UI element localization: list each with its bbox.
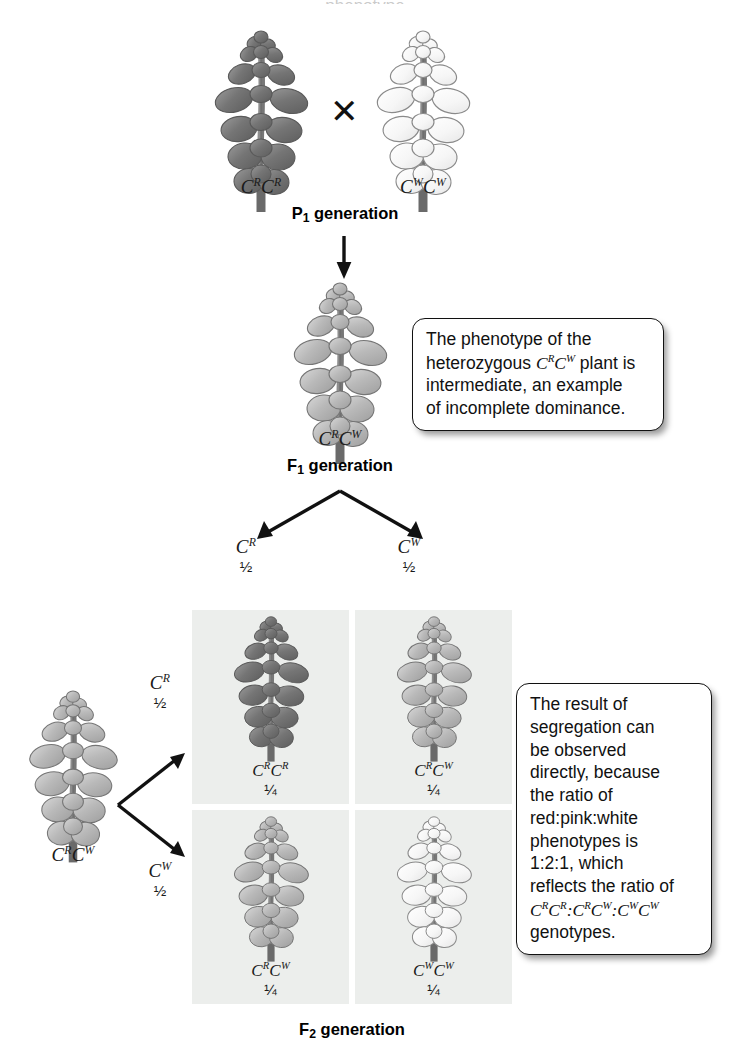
punnett-cell-wr[interactable]: CRCW ¼ xyxy=(192,810,349,1004)
punnett-cell-ww-genotype: CWCW xyxy=(355,960,512,981)
gamete-side-top: CR ½ xyxy=(130,672,190,711)
punnett-cell-wr-plant xyxy=(225,816,317,972)
punnett-cell-ww-plant xyxy=(388,816,480,972)
gamete-top-left: CR ½ xyxy=(205,536,287,575)
callout2-line5: the ratio of xyxy=(530,784,698,807)
punnett-cell-ww-fraction: ¼ xyxy=(355,981,512,998)
side-parent-pink-plant xyxy=(22,690,124,870)
callout1-line4: of incomplete dominance. xyxy=(426,397,650,420)
f1-genotype: CRCW xyxy=(286,428,394,450)
punnett-cell-rw-plant xyxy=(388,616,480,772)
gamete-top-left-fraction: ½ xyxy=(205,558,287,575)
gamete-side-top-fraction: ½ xyxy=(130,694,190,711)
callout2-line11: genotypes. xyxy=(530,921,698,944)
callout-incomplete-dominance: The phenotype of the heterozygous CRCW p… xyxy=(412,318,664,431)
p1-generation-label: P1 generation xyxy=(220,204,470,223)
punnett-cell-rr-fraction: ¼ xyxy=(192,781,349,798)
arrow-side-gamete-split xyxy=(112,745,192,865)
gamete-top-right-fraction: ½ xyxy=(368,558,450,575)
gamete-side-top-genotype: CR xyxy=(130,672,190,694)
punnett-cell-rr[interactable]: CRCR ¼ xyxy=(192,610,349,804)
callout2-line8: 1:2:1, which xyxy=(530,852,698,875)
cross-symbol: ✕ xyxy=(330,94,358,128)
callout2-line1: The result of xyxy=(530,693,698,716)
punnett-cell-rw[interactable]: CRCW ¼ xyxy=(355,610,512,804)
punnett-cell-wr-labels: CRCW ¼ xyxy=(192,960,349,998)
callout-segregation-ratio: The result of segregation can be observe… xyxy=(516,683,712,955)
figure-canvas: phenotype xyxy=(0,0,730,1052)
punnett-cell-ww[interactable]: CWCW ¼ xyxy=(355,810,512,1004)
callout2-line6: red:pink:white xyxy=(530,807,698,830)
p1-parent-red-genotype: CRCR xyxy=(207,176,315,198)
punnett-cell-rr-labels: CRCR ¼ xyxy=(192,760,349,798)
callout2-line2: segregation can xyxy=(530,716,698,739)
callout2-line9: reflects the ratio of xyxy=(530,875,698,898)
callout1-line1: The phenotype of the xyxy=(426,328,650,351)
punnett-cell-ww-labels: CWCW ¼ xyxy=(355,960,512,998)
gamete-side-bottom-fraction: ½ xyxy=(130,882,190,899)
punnett-cell-rr-genotype: CRCR xyxy=(192,760,349,781)
f1-generation-label: F1 generation xyxy=(215,456,465,475)
side-parent-genotype: CRCW xyxy=(22,844,124,866)
punnett-square: CRCR ¼ CRCW ¼ xyxy=(192,610,512,1004)
callout2-genotype-ratio: CRCR:CRCW:CWCW xyxy=(530,898,698,922)
punnett-cell-wr-fraction: ¼ xyxy=(192,981,349,998)
arrow-p1-to-f1 xyxy=(330,234,364,280)
callout1-line2: heterozygous CRCW plant is xyxy=(426,351,650,375)
punnett-cell-rw-fraction: ¼ xyxy=(355,781,512,798)
gamete-top-right-genotype: CW xyxy=(368,536,450,558)
punnett-cell-rr-plant xyxy=(225,616,317,772)
punnett-cell-rw-genotype: CRCW xyxy=(355,760,512,781)
callout2-line7: phenotypes is xyxy=(530,830,698,853)
p1-parent-white-genotype: CWCW xyxy=(369,176,477,198)
f2-generation-label: F2 generation xyxy=(217,1020,487,1039)
punnett-cell-wr-genotype: CRCW xyxy=(192,960,349,981)
gamete-side-bottom-genotype: CW xyxy=(130,860,190,882)
gamete-top-right: CW ½ xyxy=(368,536,450,575)
callout2-line3: be observed xyxy=(530,739,698,762)
callout1-line3: intermediate, an example xyxy=(426,374,650,397)
cropped-title-text: phenotype xyxy=(0,0,730,4)
gamete-side-bottom: CW ½ xyxy=(130,860,190,899)
punnett-cell-rw-labels: CRCW ¼ xyxy=(355,760,512,798)
callout2-line4: directly, because xyxy=(530,761,698,784)
gamete-top-left-genotype: CR xyxy=(205,536,287,558)
